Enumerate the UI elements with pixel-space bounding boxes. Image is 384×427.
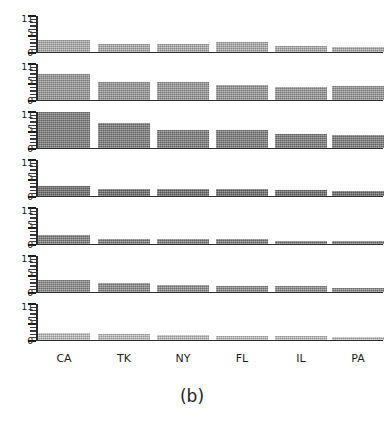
x-axis-baseline [38,340,383,341]
y-axis-minor-tick [30,46,36,47]
x-axis-baseline [38,196,383,197]
x-axis-baseline [38,100,383,101]
bar-il-panel-6 [275,286,327,291]
x-tick-label-il: IL [275,352,327,365]
bar-tk-panel-1 [98,44,150,51]
bar-pa-panel-1 [332,47,384,52]
bar-ny-panel-5 [157,239,209,243]
bar-ny-panel-3 [157,130,209,148]
y-axis-minor-tick [30,73,36,74]
y-axis-minor-tick [30,327,36,328]
bar-il-panel-2 [275,87,327,99]
bar-ny-panel-1 [157,44,209,52]
figure-panel-b: 1150115011501150115011501150 CATKNYFLILP… [0,0,384,427]
y-axis-minor-tick [30,67,36,68]
bar-tk-panel-3 [98,123,150,147]
y-axis-minor-tick [30,310,36,311]
y-axis-minor-tick [30,231,36,232]
bar-ny-panel-7 [157,335,209,340]
chart-panel-2: 1150 [0,62,384,110]
bar-il-panel-3 [275,134,327,148]
y-axis-minor-tick [30,118,36,119]
y-axis-minor-tick [30,224,36,225]
y-axis-minor-tick [30,186,36,187]
plot-area-1 [38,16,384,53]
bar-il-panel-4 [275,190,327,196]
y-axis-major-tick [28,207,36,209]
y-axis-minor-tick [30,163,36,164]
bar-ca-panel-3 [38,112,90,148]
y-axis-minor-tick [30,77,36,78]
bar-pa-panel-5 [332,241,384,244]
y-axis-minor-tick [30,279,36,280]
x-tick-label-ca: CA [38,352,90,365]
figure-caption: (b) [0,386,384,406]
chart-panel-1: 1150 [0,14,384,62]
chart-panel-5: 1150 [0,206,384,254]
y-axis-major-tick [28,148,36,150]
y-axis-minor-tick [30,307,36,308]
bar-il-panel-1 [275,46,327,51]
y-axis-minor-tick [30,190,36,191]
bar-tk-panel-2 [98,82,150,99]
y-axis-minor-tick [30,183,36,184]
chart-panel-4: 1150 [0,158,384,206]
bar-ca-panel-6 [38,280,90,291]
bar-group-3 [38,112,383,148]
y-axis-major-tick [28,179,36,181]
bar-fl-panel-3 [216,130,268,148]
bar-ny-panel-4 [157,189,209,195]
x-tick-label-pa: PA [332,352,384,365]
plot-area-2 [38,64,384,101]
x-axis-baseline [38,244,383,245]
y-axis-major-tick [28,100,36,102]
y-axis-minor-tick [30,259,36,260]
bar-ny-panel-2 [157,82,209,99]
x-axis-baseline [38,148,383,149]
y-axis-major-tick [28,35,36,37]
chart-panel-3: 1150 [0,110,384,158]
y-axis-minor-tick [30,217,36,218]
y-axis-major-tick [28,227,36,229]
y-axis-minor-tick [30,313,36,314]
y-axis-minor-tick [30,94,36,95]
bar-fl-panel-1 [216,42,268,52]
y-axis-minor-tick [30,337,36,338]
bar-ca-panel-2 [38,74,90,100]
chart-panel-6: 1150 [0,254,384,302]
x-axis-baseline [38,52,383,53]
y-axis-minor-tick [30,269,36,270]
y-axis-major-tick [28,275,36,277]
bar-ca-panel-4 [38,186,90,196]
y-axis-minor-tick [30,282,36,283]
y-axis-minor-tick [30,272,36,273]
bar-ny-panel-6 [157,285,209,291]
bar-fl-panel-6 [216,286,268,292]
plot-area-7 [38,304,384,341]
bar-tk-panel-5 [98,239,150,244]
bar-fl-panel-5 [216,239,268,243]
x-axis-category-labels: CATKNYFLILPA [38,352,383,370]
y-axis-minor-tick [30,193,36,194]
y-axis-minor-tick [30,262,36,263]
y-axis-minor-tick [30,128,36,129]
y-axis-minor-tick [30,238,36,239]
bar-ca-panel-5 [38,235,90,243]
bar-il-panel-7 [275,336,327,339]
x-tick-label-fl: FL [216,352,268,365]
y-axis-minor-tick [30,241,36,242]
bar-fl-panel-2 [216,85,268,100]
y-axis-major-tick [28,15,36,17]
bar-fl-panel-7 [216,336,268,340]
y-axis-minor-tick [30,97,36,98]
bar-pa-panel-4 [332,191,384,196]
y-axis-minor-tick [30,317,36,318]
y-axis-major-tick [28,83,36,85]
bar-pa-panel-7 [332,337,384,339]
y-axis-minor-tick [30,49,36,50]
y-axis-minor-tick [30,135,36,136]
y-axis-major-tick [28,244,36,246]
bar-group-7 [38,304,383,340]
plot-area-4 [38,160,384,197]
y-axis-minor-tick [30,221,36,222]
